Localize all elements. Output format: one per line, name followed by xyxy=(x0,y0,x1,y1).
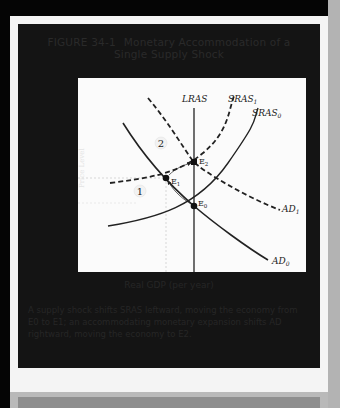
ad0-label: AD0 xyxy=(271,256,290,267)
figure-panel: FIGURE 34-1Monetary Accommodation of a S… xyxy=(18,24,320,368)
ad1-label: AD1 xyxy=(281,204,300,215)
arrow-e1-to-e2 xyxy=(169,163,191,175)
point-e1 xyxy=(163,175,170,182)
step-2-label: 2 xyxy=(158,138,164,149)
sras0-label: SRAS0 xyxy=(252,108,282,119)
sras1-label: SRAS1 xyxy=(228,94,257,105)
chart: 1 2 LRAS SRAS1 SRAS0 AD1 AD0 E0 E1 E2 Pr… xyxy=(78,78,306,272)
scrollbar-track[interactable] xyxy=(328,0,340,408)
e2-label: E2 xyxy=(199,157,208,167)
x-axis-label: Real GDP (per year) xyxy=(18,280,320,290)
top-dark-band xyxy=(0,0,328,16)
y-axis-label: Price Level xyxy=(78,148,86,188)
e1-label: E1 xyxy=(171,177,180,187)
lras-label: LRAS xyxy=(181,94,207,104)
step-1-label: 1 xyxy=(137,186,143,197)
figure-title-line2: Single Supply Shock xyxy=(114,48,224,60)
sras1-curve xyxy=(110,96,234,183)
figure-caption: A supply shock shifts SRAS leftward, mov… xyxy=(28,304,310,340)
figure-label: FIGURE 34-1 xyxy=(48,36,116,48)
point-e0 xyxy=(191,203,198,210)
point-e2 xyxy=(191,159,197,165)
sras0-curve xyxy=(108,108,258,226)
next-section-band xyxy=(18,397,320,408)
chart-svg: 1 2 LRAS SRAS1 SRAS0 AD1 AD0 E0 E1 E2 Pr… xyxy=(78,78,306,272)
e0-label: E0 xyxy=(198,199,208,209)
figure-title-line1: Monetary Accommodation of a xyxy=(124,36,291,48)
figure-title: FIGURE 34-1Monetary Accommodation of a S… xyxy=(18,36,320,60)
left-dark-band xyxy=(0,0,10,408)
